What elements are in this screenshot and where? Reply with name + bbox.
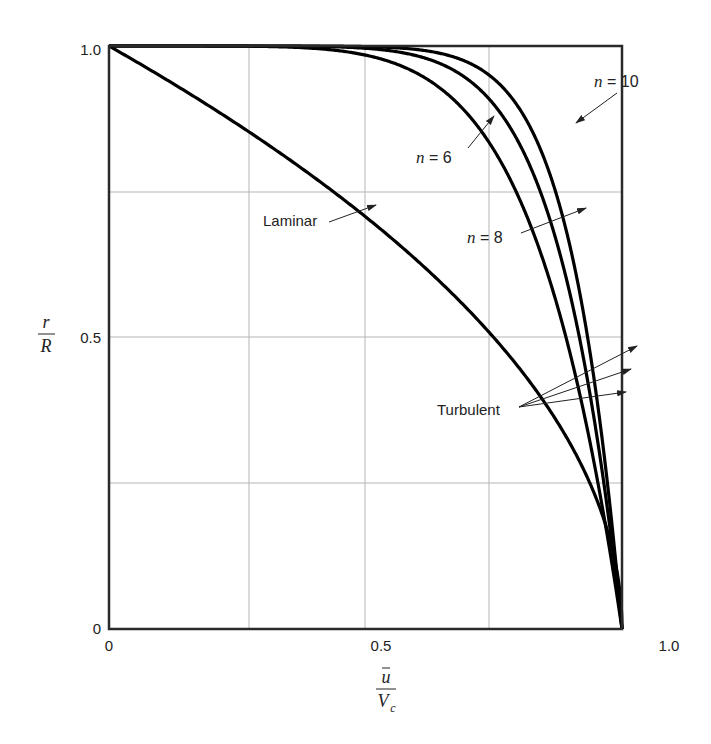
gridlines bbox=[109, 46, 622, 629]
annotation-n10: n = 10 bbox=[576, 72, 639, 123]
turbulent-label: Turbulent bbox=[437, 401, 501, 418]
x-axis-denominator: V bbox=[378, 691, 391, 711]
x-tick-0.5: 0.5 bbox=[371, 637, 392, 654]
turbulent-arrow-icon bbox=[519, 392, 626, 407]
y-tick-1: 1.0 bbox=[80, 41, 101, 58]
n10-label: n = 10 bbox=[594, 72, 639, 91]
y-axis-numerator: r bbox=[42, 312, 50, 332]
x-tick-1: 1.0 bbox=[659, 637, 680, 654]
annotation-n6: n = 6 bbox=[416, 116, 494, 167]
y-tick-0: 0 bbox=[93, 620, 101, 637]
y-axis-label: r R bbox=[38, 312, 55, 356]
annotation-laminar: Laminar bbox=[263, 205, 376, 229]
laminar-label: Laminar bbox=[263, 212, 317, 229]
y-tick-0.5: 0.5 bbox=[80, 329, 101, 346]
turbulent-arrow-icon bbox=[519, 346, 637, 407]
x-axis-denominator-subscript: c bbox=[390, 701, 396, 715]
y-tick-labels: 1.0 0.5 0 bbox=[80, 41, 101, 637]
x-axis-label: u V c bbox=[376, 667, 396, 715]
y-axis-denominator: R bbox=[40, 336, 52, 356]
n6-label: n = 6 bbox=[416, 148, 452, 167]
velocity-profile-chart: 1.0 0.5 0 0 0.5 1.0 r R u V c Laminar n … bbox=[0, 0, 711, 744]
x-axis-numerator: u bbox=[382, 667, 391, 687]
n10-arrow-icon bbox=[576, 93, 617, 123]
x-tick-0: 0 bbox=[105, 637, 113, 654]
annotation-turbulent: Turbulent bbox=[437, 346, 637, 418]
x-tick-labels: 0 0.5 1.0 bbox=[105, 637, 680, 654]
n8-label: n = 8 bbox=[467, 228, 503, 247]
